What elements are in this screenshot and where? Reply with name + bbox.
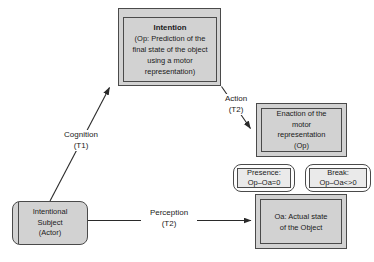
break-node-text: Break: Op–Oa<>0	[309, 168, 367, 188]
edge-label-text: Perception	[142, 208, 196, 219]
perception-edge-label: Perception (T2)	[141, 208, 197, 229]
text-line: using a motor	[147, 55, 192, 66]
edge-label-time: (T1)	[55, 141, 107, 152]
intention-node-text: Intention (Op: Prediction of the final s…	[123, 17, 217, 82]
text-line: (Op)	[294, 141, 309, 152]
diagram-canvas: Intention (Op: Prediction of the final s…	[0, 0, 374, 262]
text-line: Oa: Actual state	[275, 211, 328, 222]
presence-node: Presence: Op–Oa=0	[233, 164, 295, 192]
presence-node-text: Presence: Op–Oa=0	[237, 168, 291, 188]
intentional-subject-node: Intentional Subject (Actor)	[12, 201, 88, 245]
text-line: representation)	[145, 66, 195, 77]
text-line: motor	[292, 120, 311, 131]
text-line: Subject	[37, 218, 62, 229]
enaction-node-text: Enaction of the motor representation (Op…	[261, 108, 342, 152]
text-line: Op–Oa=0	[248, 178, 281, 188]
text-line: (Op: Prediction of the	[135, 33, 206, 44]
text-line: Intentional	[33, 207, 68, 218]
text-line: representation	[278, 130, 326, 141]
text-line: Enaction of the	[276, 109, 326, 120]
actual-state-node-text: Oa: Actual state of the Object	[260, 199, 342, 244]
text-line: (Actor)	[39, 228, 62, 239]
text-line: of the Object	[280, 222, 323, 233]
text-line: final state of the object	[132, 44, 207, 55]
subject-left-divider	[18, 202, 19, 244]
actual-state-node: Oa: Actual state of the Object	[255, 194, 347, 249]
break-node: Break: Op–Oa<>0	[305, 164, 371, 192]
intention-title: Intention	[154, 22, 187, 33]
text-line: Presence:	[247, 168, 281, 178]
cognition-edge-label: Cognition (T1)	[54, 130, 108, 151]
edge-label-text: Cognition	[55, 130, 107, 141]
edge-label-time: (T2)	[142, 219, 196, 230]
intention-node: Intention (Op: Prediction of the final s…	[118, 8, 221, 86]
action-edge-label: Action (T2)	[215, 94, 257, 115]
text-line: Op–Oa<>0	[319, 178, 356, 188]
edge-label-text: Action	[216, 94, 256, 105]
text-line: Break:	[327, 168, 349, 178]
edge-label-time: (T2)	[216, 105, 256, 116]
enaction-node: Enaction of the motor representation (Op…	[256, 103, 347, 157]
